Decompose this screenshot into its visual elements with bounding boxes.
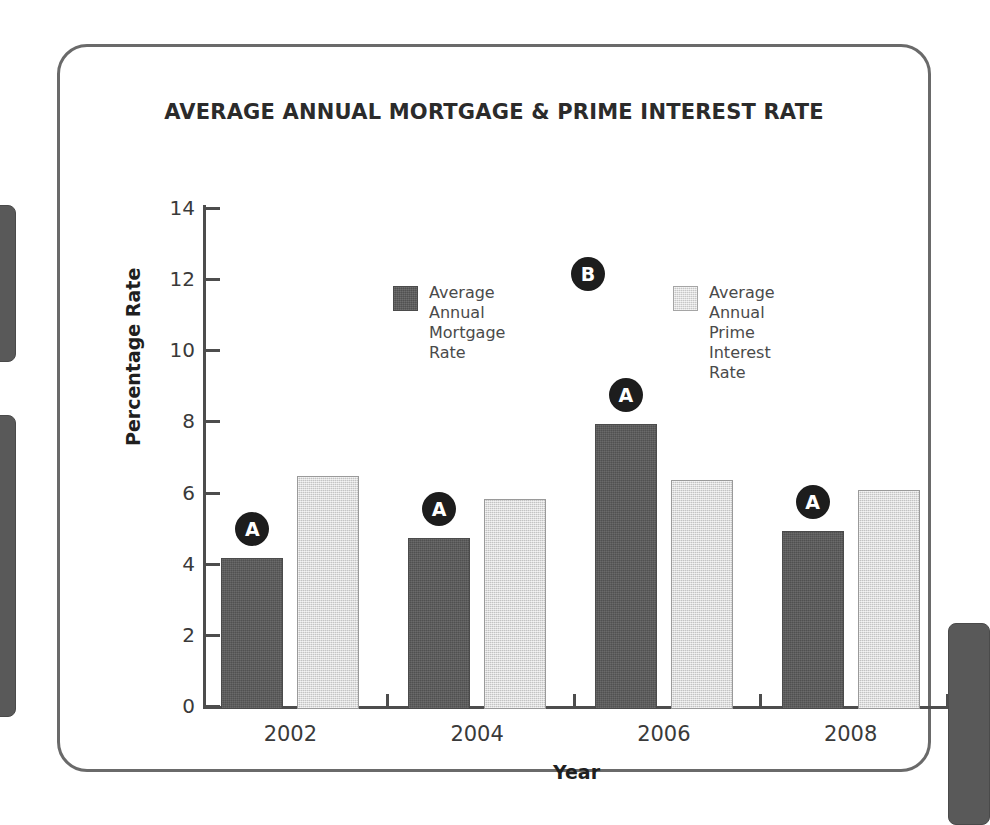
bar-2008-prime [858, 490, 920, 709]
legend-label-mortgage: Average Annual Mortgage Rate [429, 283, 505, 363]
y-axis-tick: 10 [206, 349, 220, 352]
bar-2002-mortgage [221, 558, 283, 709]
page-edge-tab-left-bottom [0, 415, 16, 717]
y-axis-tick: 2 [206, 634, 220, 637]
chart-title: AVERAGE ANNUAL MORTGAGE & PRIME INTEREST… [60, 100, 928, 124]
page-edge-tab-right-bottom [948, 623, 990, 825]
x-axis-label-2008: 2008 [824, 722, 877, 746]
bar-2008-mortgage [782, 531, 844, 709]
callout-badge-a-2[interactable]: A [610, 379, 642, 411]
page-edge-tab-left-top [0, 205, 16, 362]
legend-item-mortgage[interactable]: Average Annual Mortgage Rate [393, 283, 505, 363]
y-axis-tick: 12 [206, 278, 220, 281]
x-axis-tick [573, 694, 576, 706]
bar-2004-mortgage [408, 538, 470, 709]
x-axis-label-2006: 2006 [637, 722, 690, 746]
callout-badge-a-3[interactable]: A [797, 486, 829, 518]
y-axis-tick-label: 14 [170, 196, 195, 220]
y-axis-title: Percentage Rate [122, 268, 144, 446]
bar-2004-prime [484, 499, 546, 709]
y-axis-tick: 4 [206, 563, 220, 566]
x-axis-tick [946, 694, 949, 706]
bar-2006-mortgage [595, 424, 657, 709]
chart-card: AVERAGE ANNUAL MORTGAGE & PRIME INTEREST… [57, 44, 931, 772]
bar-2002-prime [297, 476, 359, 709]
y-axis-tick-label: 4 [182, 552, 195, 576]
y-axis-tick: 14 [206, 207, 220, 210]
y-axis-tick: 8 [206, 420, 220, 423]
legend-swatch-mortgage [393, 286, 418, 311]
legend-item-prime[interactable]: Average Annual Prime Interest Rate [673, 283, 775, 383]
legend-label-prime: Average Annual Prime Interest Rate [709, 283, 775, 383]
callout-badge-a-1[interactable]: A [423, 493, 455, 525]
y-axis-tick-label: 2 [182, 623, 195, 647]
y-axis-tick-label: 6 [182, 481, 195, 505]
y-axis-tick-label: 12 [170, 267, 195, 291]
plot-area: 14121086420 2002200420062008 Average Ann… [203, 197, 950, 717]
legend-swatch-prime [673, 286, 698, 311]
y-axis-tick-label: 10 [170, 338, 195, 362]
x-axis-tick [759, 694, 762, 706]
bar-2006-prime [671, 480, 733, 709]
y-axis-tick-label: 8 [182, 409, 195, 433]
y-axis-tick: 0 [206, 705, 220, 708]
x-axis-tick [386, 694, 389, 706]
y-axis-tick-label: 0 [182, 694, 195, 718]
x-axis-label-2004: 2004 [450, 722, 503, 746]
x-axis-title: Year [203, 761, 950, 783]
y-axis-tick: 6 [206, 492, 220, 495]
x-axis-label-2002: 2002 [264, 722, 317, 746]
callout-badge-a-0[interactable]: A [236, 513, 268, 545]
callout-badge-b-4[interactable]: B [572, 258, 604, 290]
